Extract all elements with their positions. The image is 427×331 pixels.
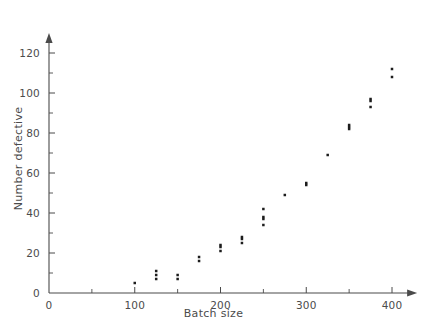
plot-area: [0, 0, 427, 331]
x-axis-label: Batch size: [0, 307, 427, 320]
data-point: [262, 208, 265, 211]
data-point: [391, 68, 394, 71]
data-point: [176, 274, 179, 277]
data-point: [391, 76, 394, 79]
data-point: [369, 100, 372, 103]
data-point: [241, 242, 244, 245]
data-point: [134, 282, 137, 285]
data-point: [155, 274, 158, 277]
y-axis-label: Number defective: [12, 94, 25, 224]
data-point: [284, 194, 287, 197]
data-point: [305, 184, 308, 187]
data-point: [348, 128, 351, 131]
y-tick-label: 120: [0, 47, 40, 59]
data-point: [262, 218, 265, 221]
data-point: [198, 260, 201, 263]
data-point: [155, 270, 158, 273]
y-tick-label: 0: [0, 287, 40, 299]
data-points: [134, 68, 394, 285]
y-tick-label: 20: [0, 247, 40, 259]
data-point: [262, 224, 265, 227]
data-point: [176, 278, 179, 281]
data-point: [155, 278, 158, 281]
y-axis-arrow: [45, 33, 52, 43]
data-point: [369, 106, 372, 109]
data-point: [326, 154, 329, 157]
scatter-chart: 0100200300400020406080100120 Batch size …: [0, 0, 427, 331]
data-point: [219, 250, 222, 253]
data-point: [219, 246, 222, 249]
x-axis-arrow: [407, 289, 417, 296]
data-point: [241, 238, 244, 241]
data-point: [198, 256, 201, 259]
